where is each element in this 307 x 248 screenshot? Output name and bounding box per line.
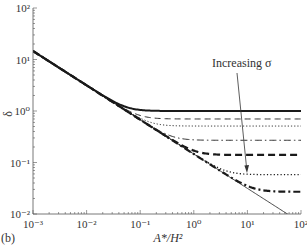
panel-label: (b)	[1, 231, 15, 245]
x-tick-label: 10⁰	[186, 218, 202, 230]
x-axis-title: A*/H²	[153, 231, 183, 245]
y-tick-labels: 10⁻²10⁻¹10⁰10¹10²	[10, 2, 31, 220]
chart: 10⁻³10⁻²10⁻¹10⁰10¹10² 10⁻²10⁻¹10⁰10¹10² …	[0, 0, 307, 248]
y-tick-label: 10²	[16, 2, 31, 14]
y-tick-label: 10⁻¹	[10, 157, 30, 169]
y-tick-label: 10¹	[16, 54, 30, 66]
x-tick-labels: 10⁻³10⁻²10⁻¹10⁰10¹10²	[23, 218, 307, 230]
y-axis-title: δ	[1, 111, 15, 117]
x-tick-label: 10⁻¹	[130, 218, 150, 230]
annotation-increasing-sigma: Increasing σ	[212, 56, 272, 70]
y-tick-label: 10⁰	[15, 105, 31, 117]
y-tick-label: 10⁻²	[10, 208, 31, 220]
annotation-arrow	[237, 73, 249, 173]
series-σ7	[33, 51, 301, 192]
x-tick-label: 10⁻²	[77, 218, 98, 230]
plot-curves	[33, 51, 301, 223]
x-tick-label: 10²	[294, 218, 307, 230]
x-tick-label: 10¹	[240, 218, 254, 230]
